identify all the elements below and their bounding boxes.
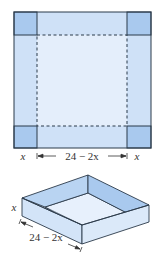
corner-label-left: x <box>20 150 26 162</box>
corner-square-bottom-right <box>127 126 151 148</box>
flap-right <box>127 35 151 126</box>
corner-square-top-left <box>14 12 37 35</box>
flap-bottom <box>37 126 127 148</box>
flat-sheet <box>14 12 151 148</box>
corner-square-bottom-left <box>14 126 37 148</box>
corner-square-top-right <box>127 12 151 35</box>
box-length-label: 24 − 2x <box>29 231 63 243</box>
span-label: 24 − 2x <box>65 150 99 162</box>
flap-left <box>14 35 37 126</box>
corner-label-right: x <box>134 150 140 162</box>
flap-top <box>37 12 127 35</box>
open-box-diagram: x x 24 − 2x x 24 − 2x <box>0 0 166 267</box>
box-height-label: x <box>11 201 17 213</box>
